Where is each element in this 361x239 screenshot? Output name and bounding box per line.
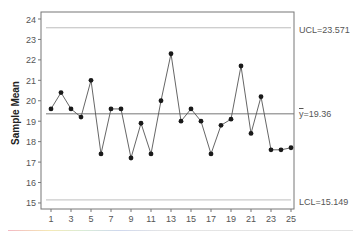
x-tick-label: 19 [226, 214, 236, 224]
x-tick-label: 13 [166, 214, 176, 224]
x-tick-label: 3 [68, 214, 73, 224]
y-tick-label: 23 [26, 35, 36, 45]
y-tick-label: 22 [26, 55, 36, 65]
ucl-label: UCL=23.571 [299, 25, 350, 35]
data-point [129, 156, 134, 161]
data-point [109, 107, 114, 112]
y-tick-label: 21 [26, 76, 36, 86]
y-tick-label: 16 [26, 178, 36, 188]
x-tick-label: 1 [48, 214, 53, 224]
plot-frame [41, 12, 294, 209]
x-tick-label: 15 [186, 214, 196, 224]
y-tick-label: 15 [26, 198, 36, 208]
data-point [79, 115, 84, 120]
data-point [149, 152, 154, 157]
x-tick-label: 17 [206, 214, 216, 224]
y-tick-label: 24 [26, 15, 36, 25]
data-series [49, 51, 294, 160]
data-point [99, 152, 104, 157]
data-point [59, 90, 64, 95]
x-tick-label: 11 [146, 214, 155, 224]
series-line [51, 54, 291, 158]
data-point [209, 152, 214, 157]
x-tick-label: 9 [128, 214, 133, 224]
x-tick-label: 23 [266, 214, 276, 224]
data-point [259, 94, 264, 99]
data-point [289, 145, 294, 150]
ybar-symbol: y [299, 109, 304, 119]
data-point [269, 147, 274, 152]
data-point [139, 121, 144, 126]
data-point [219, 123, 224, 128]
data-point [89, 78, 94, 83]
lcl-label: LCL=15.149 [299, 197, 348, 207]
data-point [189, 107, 194, 112]
x-tick-label: 5 [88, 214, 93, 224]
data-point [69, 107, 74, 112]
y-tick-label: 19 [26, 117, 36, 127]
y-axis-label: Sample Mean [10, 81, 21, 145]
y-tick-label: 18 [26, 137, 36, 147]
x-tick-label: 7 [108, 214, 113, 224]
center-value: =19.36 [304, 109, 332, 119]
data-point [239, 64, 244, 69]
data-point [169, 51, 174, 56]
data-point [49, 107, 54, 112]
x-tick-label: 21 [246, 214, 256, 224]
y-tick-label: 20 [26, 96, 36, 106]
data-point [199, 119, 204, 124]
data-point [249, 131, 254, 136]
decorative-rule [8, 230, 353, 231]
data-point [179, 119, 184, 124]
center-line-label: y=19.36 [299, 109, 331, 119]
data-point [229, 117, 234, 122]
y-tick-label: 17 [26, 158, 36, 168]
data-point [279, 147, 284, 152]
x-tick-label: 25 [286, 214, 296, 224]
data-point [119, 107, 124, 112]
data-point [159, 98, 164, 103]
